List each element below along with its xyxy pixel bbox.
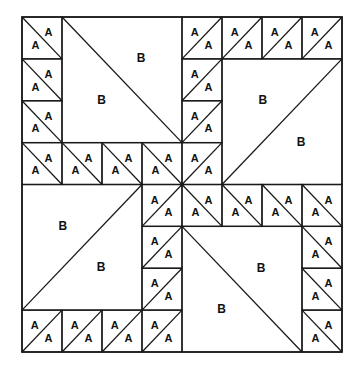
a-triangle-label: A xyxy=(44,332,52,344)
a-triangle-label: A xyxy=(324,39,332,51)
a-triangle-label: A xyxy=(32,164,40,176)
a-triangle-label: A xyxy=(32,81,40,93)
a-triangle-label: A xyxy=(204,39,212,51)
b-triangle-label: B xyxy=(257,261,266,275)
a-triangle-label: A xyxy=(72,164,80,176)
a-triangle-label: A xyxy=(191,152,199,164)
a-triangle-label: A xyxy=(312,248,320,260)
a-triangle-label: A xyxy=(192,206,200,218)
a-triangle-label: A xyxy=(204,164,212,176)
quilt-block-diagram: BBBBBBBBAAAAAAAAAAAAAAAAAAAAAAAAAAAAAAAA… xyxy=(0,0,358,370)
b-triangle-label: B xyxy=(97,260,106,274)
a-triangle-label: A xyxy=(164,206,172,218)
b-triangle-label: B xyxy=(297,135,306,149)
a-triangle-label: A xyxy=(164,152,172,164)
a-triangle-label: A xyxy=(84,332,92,344)
a-triangle-label: A xyxy=(84,152,92,164)
a-triangle-label: A xyxy=(271,26,279,38)
a-triangle-label: A xyxy=(32,39,40,51)
a-triangle-label: A xyxy=(124,152,132,164)
a-triangle-label: A xyxy=(232,206,240,218)
a-triangle-label: A xyxy=(164,290,172,302)
a-triangle-label: A xyxy=(44,26,52,38)
a-triangle-label: A xyxy=(191,68,199,80)
b-triangle-label: B xyxy=(97,93,106,107)
a-triangle-label: A xyxy=(151,319,159,331)
a-triangle-label: A xyxy=(151,235,159,247)
a-triangle-label: A xyxy=(244,194,252,206)
b-triangle-label: B xyxy=(217,302,226,316)
a-triangle-label: A xyxy=(151,194,159,206)
b-triangle-label: B xyxy=(258,93,267,107)
a-triangle-label: A xyxy=(324,194,332,206)
center-point xyxy=(180,183,184,187)
a-triangle-label: A xyxy=(311,26,319,38)
a-triangle-label: A xyxy=(244,39,252,51)
a-triangle-label: A xyxy=(272,206,280,218)
a-triangle-label: A xyxy=(112,164,120,176)
a-triangle-label: A xyxy=(204,122,212,134)
a-triangle-label: A xyxy=(151,277,159,289)
a-triangle-label: A xyxy=(284,39,292,51)
a-triangle-label: A xyxy=(204,194,212,206)
a-triangle-label: A xyxy=(324,277,332,289)
a-triangle-label: A xyxy=(324,319,332,331)
a-triangle-label: A xyxy=(284,194,292,206)
a-triangle-label: A xyxy=(164,248,172,260)
a-triangle-label: A xyxy=(312,290,320,302)
a-triangle-label: A xyxy=(44,110,52,122)
a-triangle-label: A xyxy=(312,206,320,218)
a-triangle-label: A xyxy=(191,110,199,122)
a-triangle-label: A xyxy=(124,332,132,344)
a-triangle-label: A xyxy=(191,26,199,38)
a-triangle-label: A xyxy=(71,319,79,331)
a-triangle-label: A xyxy=(312,332,320,344)
b-triangle-label: B xyxy=(137,51,146,65)
a-triangle-label: A xyxy=(32,122,40,134)
a-triangle-label: A xyxy=(152,164,160,176)
a-triangle-label: A xyxy=(204,81,212,93)
a-triangle-label: A xyxy=(231,26,239,38)
a-triangle-label: A xyxy=(324,235,332,247)
a-triangle-label: A xyxy=(31,319,39,331)
b-triangle-label: B xyxy=(58,219,67,233)
a-triangle-label: A xyxy=(111,319,119,331)
a-triangle-label: A xyxy=(44,68,52,80)
a-triangle-label: A xyxy=(164,332,172,344)
a-triangle-label: A xyxy=(44,152,52,164)
